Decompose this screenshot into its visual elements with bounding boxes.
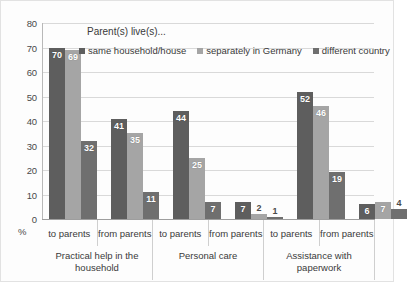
bar-value-label: 7 bbox=[380, 204, 385, 214]
legend-item[interactable]: same household/house bbox=[79, 45, 186, 56]
legend-label: different country bbox=[322, 45, 390, 56]
bar[interactable]: 6 bbox=[359, 204, 375, 219]
bar[interactable]: 1 bbox=[267, 217, 283, 219]
category-group-label: Assistance with paperwork bbox=[265, 250, 373, 274]
bar-value-label: 19 bbox=[332, 174, 342, 184]
bar-wrap: 4 bbox=[391, 23, 407, 219]
legend-title: Parent(s) live(s)... bbox=[87, 26, 166, 37]
category-label: from parents bbox=[209, 220, 265, 246]
bar-value-label: 4 bbox=[396, 198, 401, 208]
bar[interactable]: 11 bbox=[143, 192, 159, 219]
y-tick-label: 50 bbox=[7, 91, 37, 102]
bar[interactable]: 70 bbox=[49, 48, 65, 220]
y-tick-label: 0 bbox=[7, 214, 37, 225]
bar-value-label: 41 bbox=[114, 121, 124, 131]
y-axis-unit-label: % bbox=[18, 226, 26, 237]
bar[interactable]: 4 bbox=[391, 209, 407, 219]
bar-value-label: 69 bbox=[68, 52, 78, 62]
category-group-cell: Assistance with paperwork bbox=[264, 246, 375, 280]
bar[interactable]: 41 bbox=[111, 119, 127, 219]
legend-swatch-icon bbox=[197, 48, 203, 54]
bar-value-label: 1 bbox=[272, 206, 277, 216]
bar-value-label: 44 bbox=[176, 113, 186, 123]
bar-value-label: 2 bbox=[256, 203, 261, 213]
y-tick-label: 30 bbox=[7, 140, 37, 151]
bar[interactable]: 19 bbox=[329, 172, 345, 219]
y-tick-label: 80 bbox=[7, 18, 37, 29]
legend-item[interactable]: separately in Germany bbox=[197, 45, 302, 56]
bar[interactable]: 35 bbox=[127, 133, 143, 219]
legend-label: same household/house bbox=[88, 45, 186, 56]
bar[interactable]: 46 bbox=[313, 106, 329, 219]
bar[interactable]: 7 bbox=[235, 202, 251, 219]
bar[interactable]: 2 bbox=[251, 214, 267, 219]
bar-value-label: 7 bbox=[210, 204, 215, 214]
category-label: to parents bbox=[153, 220, 209, 246]
bar[interactable]: 52 bbox=[297, 92, 313, 219]
bar-value-label: 46 bbox=[316, 108, 326, 118]
y-tick-label: 40 bbox=[7, 116, 37, 127]
bar-value-label: 35 bbox=[130, 135, 140, 145]
bar-value-label: 52 bbox=[300, 94, 310, 104]
y-tick-label: 60 bbox=[7, 67, 37, 78]
bar[interactable]: 69 bbox=[65, 50, 81, 219]
bar-value-label: 70 bbox=[52, 50, 62, 60]
category-group-label: Personal care bbox=[179, 250, 238, 262]
bar-value-label: 7 bbox=[240, 204, 245, 214]
legend-swatch-icon bbox=[313, 48, 319, 54]
bar-value-label: 32 bbox=[84, 143, 94, 153]
category-label: from parents bbox=[98, 220, 154, 246]
bar[interactable]: 7 bbox=[375, 202, 391, 219]
category-axis: to parentsfrom parentsto parentsfrom par… bbox=[42, 220, 375, 246]
y-tick-label: 10 bbox=[7, 189, 37, 200]
legend-item[interactable]: different country bbox=[313, 45, 390, 56]
y-tick-label: 20 bbox=[7, 165, 37, 176]
bar[interactable]: 25 bbox=[189, 158, 205, 219]
legend-swatch-icon bbox=[79, 48, 85, 54]
bar[interactable]: 7 bbox=[205, 202, 221, 219]
category-group-cell: Practical help in the household bbox=[42, 246, 153, 280]
bar-wrap: 70 bbox=[49, 23, 65, 219]
category-group-axis: Practical help in the householdPersonal … bbox=[42, 246, 375, 280]
y-tick-label: 70 bbox=[7, 42, 37, 53]
legend: same household/houseseparately in German… bbox=[79, 45, 390, 56]
bar-value-label: 6 bbox=[364, 206, 369, 216]
bar[interactable]: 44 bbox=[173, 111, 189, 219]
bar-value-label: 25 bbox=[192, 160, 202, 170]
category-label: from parents bbox=[320, 220, 376, 246]
legend-label: separately in Germany bbox=[206, 45, 302, 56]
bar[interactable]: 32 bbox=[81, 141, 97, 219]
category-group-cell: Personal care bbox=[153, 246, 264, 280]
category-label: to parents bbox=[264, 220, 320, 246]
category-group-label: Practical help in the household bbox=[43, 250, 151, 274]
category-label: to parents bbox=[42, 220, 98, 246]
bar-value-label: 11 bbox=[146, 194, 156, 204]
